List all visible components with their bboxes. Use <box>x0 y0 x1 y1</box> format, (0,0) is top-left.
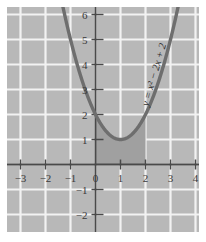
x-tick-label: 4 <box>193 172 199 184</box>
x-tick-label: −2 <box>40 172 52 184</box>
x-tick-label: −3 <box>15 172 27 184</box>
y-tick-label: −2 <box>76 209 88 221</box>
parabola-chart-svg: −3−2−101234 −2−1123456 y = x² − 2x + 2 <box>0 0 206 242</box>
y-tick-label: 2 <box>82 109 88 121</box>
y-tick-label: 5 <box>82 34 88 46</box>
x-tick-label: 0 <box>93 172 99 184</box>
x-tick-label: 2 <box>143 172 149 184</box>
y-tick-label: 3 <box>82 84 88 96</box>
x-tick-label: −1 <box>65 172 77 184</box>
x-tick-label: 1 <box>118 172 124 184</box>
y-tick-label: 6 <box>82 9 88 21</box>
y-tick-label: 4 <box>82 59 88 71</box>
chart-figure: −3−2−101234 −2−1123456 y = x² − 2x + 2 <box>0 0 206 242</box>
y-tick-label: 1 <box>82 134 88 146</box>
x-tick-label: 3 <box>168 172 174 184</box>
y-tick-label: −1 <box>76 184 88 196</box>
